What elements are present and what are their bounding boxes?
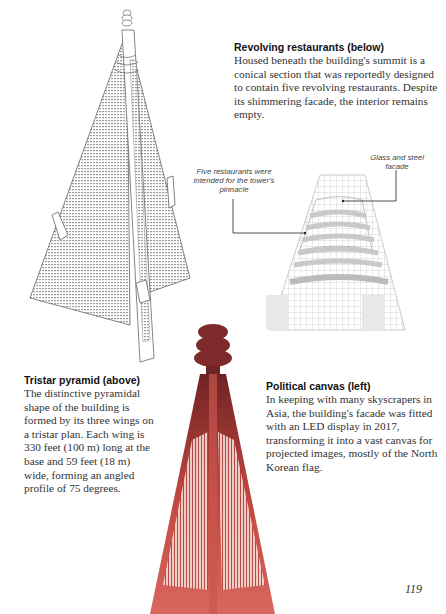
tristar-pyramid-illustration <box>30 10 190 362</box>
revolving-restaurants-section: Revolving restaurants (below) Housed ben… <box>234 41 444 122</box>
tristar-pyramid-section: Tristar pyramid (above) The distinctive … <box>24 374 156 496</box>
page-number: 119 <box>405 582 422 597</box>
political-canvas-body: In keeping with many skyscrapers in Asia… <box>266 393 442 475</box>
tristar-pyramid-body: The distinctive pyramidal shape of the b… <box>24 387 156 496</box>
led-facade-tower-illustration <box>150 324 275 614</box>
political-canvas-heading: Political canvas (left) <box>266 380 442 393</box>
revolving-restaurants-heading: Revolving restaurants (below) <box>234 41 444 54</box>
political-canvas-section: Political canvas (left) In keeping with … <box>266 380 442 475</box>
conical-section-illustration <box>233 170 405 330</box>
revolving-restaurants-body: Housed beneath the building's summit is … <box>234 54 444 122</box>
tristar-pyramid-heading: Tristar pyramid (above) <box>24 374 156 387</box>
facade-callout: Glass and steel facade <box>370 153 424 171</box>
restaurants-callout: Five restaurants were intended for the t… <box>188 167 280 194</box>
